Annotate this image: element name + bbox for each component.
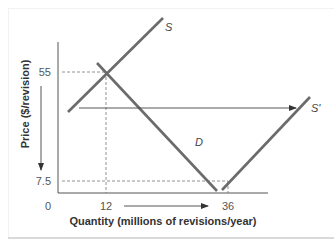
y-axis-title: Price ($/revision) — [19, 59, 31, 148]
tick-origin: 0 — [45, 200, 51, 212]
x-axis-title: Quantity (millions of revisions/year) — [69, 215, 256, 227]
label-s-prime: S' — [311, 102, 321, 114]
tick-x-12: 12 — [100, 200, 112, 212]
supply-curve-s — [68, 18, 163, 112]
supply-curve-s-prime — [222, 97, 310, 190]
tick-y-7-5: 7.5 — [36, 175, 51, 187]
label-d: D — [195, 136, 203, 148]
label-s: S — [165, 21, 173, 33]
tick-y-55: 55 — [39, 66, 51, 78]
demand-curve-d — [97, 63, 217, 191]
tick-x-36: 36 — [222, 200, 234, 212]
